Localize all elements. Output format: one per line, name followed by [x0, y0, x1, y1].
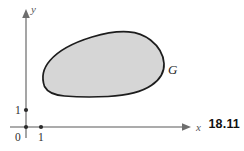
y-axis-arrowhead: [22, 9, 30, 18]
x-axis-tick-label-1: 1: [38, 131, 44, 143]
region-label-g: G: [168, 62, 178, 77]
x-axis-label: x: [195, 121, 201, 133]
y-axis-label: y: [30, 3, 36, 15]
figure-number-label: 18.11: [208, 117, 240, 131]
region-g-shape: [43, 32, 164, 97]
origin-dot: [24, 125, 28, 129]
figure-18-11: y x 1 0 1 G 18.11: [0, 0, 244, 151]
coordinate-plane-figure: y x 1 0 1 G: [0, 0, 244, 151]
y-axis-tick-dot-1: [24, 108, 28, 112]
origin-label: 0: [15, 131, 21, 143]
y-axis-tick-label-1: 1: [15, 104, 21, 116]
x-axis-tick-dot-1: [39, 125, 43, 129]
x-axis-arrowhead: [182, 123, 191, 131]
